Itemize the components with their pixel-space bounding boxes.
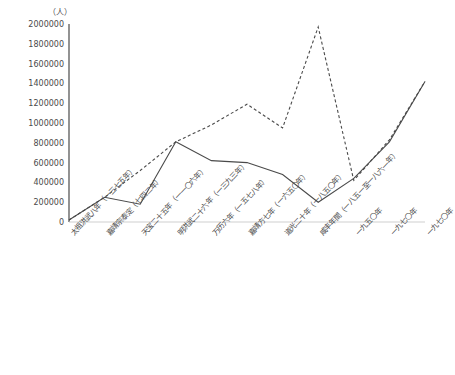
chart-container: （人） 200000018000001600000140000012000001… [0,0,435,375]
